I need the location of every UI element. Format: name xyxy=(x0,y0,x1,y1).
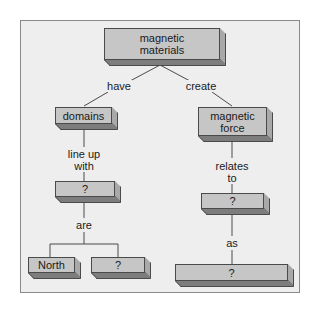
node-magnetic-force: magnetic force xyxy=(198,107,267,136)
box-face: ? xyxy=(55,181,115,197)
connector-create-bottom xyxy=(212,92,232,106)
box-face: ? xyxy=(201,193,264,209)
link-create: create xyxy=(185,80,218,92)
node-label: ? xyxy=(82,183,88,195)
box-bottom xyxy=(175,281,294,287)
box-bottom xyxy=(91,273,151,279)
box-bottom xyxy=(28,273,81,279)
link-relates-to: relates to xyxy=(214,160,249,184)
node-left-unknown: ? xyxy=(55,181,115,197)
box-face: magnetic materials xyxy=(104,28,220,60)
box-face: ? xyxy=(91,257,145,273)
box-face: ? xyxy=(175,264,288,281)
box-face: North xyxy=(28,257,75,273)
box-bottom xyxy=(201,209,270,215)
box-bottom xyxy=(104,60,226,66)
node-right-unknown: ? xyxy=(201,193,264,209)
node-magnetic-materials: magnetic materials xyxy=(104,28,220,60)
node-label: magnetic materials xyxy=(140,32,185,56)
box-face: magnetic force xyxy=(198,107,267,136)
node-label: ? xyxy=(228,267,234,279)
node-label: ? xyxy=(115,259,121,271)
link-are: are xyxy=(75,219,93,231)
node-label: magnetic force xyxy=(210,110,255,134)
node-label: North xyxy=(38,259,65,271)
link-line-up-with: line up with xyxy=(67,148,101,172)
box-face: domains xyxy=(55,107,112,124)
box-bottom xyxy=(55,124,118,130)
box-bottom xyxy=(55,197,121,203)
node-north: North xyxy=(28,257,75,273)
connector-have-bottom xyxy=(84,92,108,106)
link-have: have xyxy=(106,80,132,92)
node-label: ? xyxy=(229,195,235,207)
node-domains: domains xyxy=(55,107,112,124)
connector-have-top xyxy=(130,65,160,81)
node-bottom-unknown: ? xyxy=(175,264,288,281)
node-pole-unknown: ? xyxy=(91,257,145,273)
link-as: as xyxy=(225,237,239,249)
connector-create-top xyxy=(160,65,190,81)
node-label: domains xyxy=(63,110,105,122)
box-bottom xyxy=(198,136,273,142)
